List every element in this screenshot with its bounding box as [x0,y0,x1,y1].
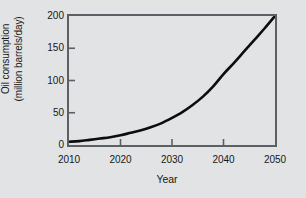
x-axis-title: Year [56,173,278,185]
x-tick-label: 2050 [255,155,295,165]
plot-area [67,14,277,147]
y-tick-marks [69,48,75,113]
plot-svg [69,16,275,145]
x-tick-label: 2030 [152,155,192,165]
data-curve-oil-consumption [69,16,275,142]
chart-figure: Oil consumption (million barrels/day) 05… [0,0,306,198]
x-tick-label: 2010 [49,155,89,165]
x-tick-label: 2040 [204,155,244,165]
x-tick-label: 2020 [101,155,141,165]
x-tick-marks [121,139,224,145]
